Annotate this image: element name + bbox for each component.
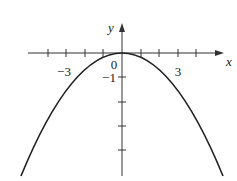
y-axis-label: y bbox=[106, 20, 114, 35]
x-tick-label-neg3: −3 bbox=[57, 64, 71, 79]
parabola-chart: x y 0 −3 3 −1 bbox=[0, 0, 237, 181]
y-axis-arrow-icon bbox=[119, 23, 125, 32]
x-axis-arrow-icon bbox=[215, 50, 224, 56]
y-tick-label-neg1: −1 bbox=[102, 70, 116, 85]
x-tick-label-3: 3 bbox=[175, 64, 182, 79]
x-axis-label: x bbox=[225, 54, 232, 69]
